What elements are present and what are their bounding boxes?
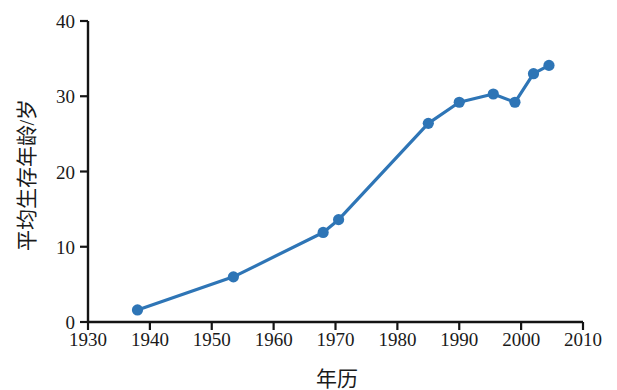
data-point-marker [543, 60, 554, 71]
data-point-marker [454, 97, 465, 108]
x-axis-tick-label: 2000 [502, 330, 540, 349]
x-axis-tick-label: 1950 [193, 330, 231, 349]
data-point-marker [509, 97, 520, 108]
data-point-marker [423, 118, 434, 129]
y-axis-tick-label: 40 [0, 12, 75, 31]
data-point-marker [318, 227, 329, 238]
y-axis-title: 平均生存年龄/岁 [10, 99, 40, 252]
x-axis-tick-label: 1970 [317, 330, 355, 349]
data-point-marker [528, 68, 539, 79]
x-axis-tick-label: 2010 [564, 330, 602, 349]
series-line [138, 65, 549, 310]
x-axis-tick-label: 1980 [378, 330, 416, 349]
y-axis-tick-label: 0 [0, 313, 75, 332]
chart-axes [88, 21, 583, 322]
chart-container: 010203040 193019401950196019701980199020… [0, 0, 617, 390]
data-point-marker [132, 304, 143, 315]
data-point-marker [228, 271, 239, 282]
data-point-marker [488, 88, 499, 99]
x-axis-tick-label: 1940 [131, 330, 169, 349]
x-axis-tick-label: 1930 [69, 330, 107, 349]
x-axis-tick-label: 1990 [440, 330, 478, 349]
data-series-group [132, 60, 555, 316]
x-axis-tick-label: 1960 [255, 330, 293, 349]
data-point-marker [333, 214, 344, 225]
x-axis-title: 年历 [316, 362, 358, 390]
